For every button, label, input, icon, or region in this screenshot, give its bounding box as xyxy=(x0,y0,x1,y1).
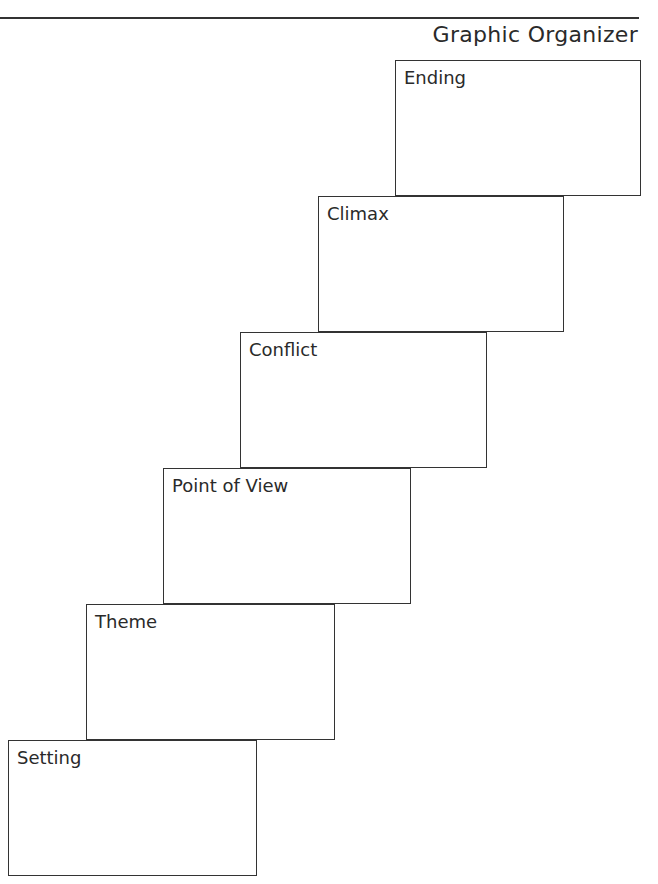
box-label: Climax xyxy=(327,203,389,224)
box-point-of-view[interactable]: Point of View xyxy=(163,468,411,604)
top-rule xyxy=(0,17,639,19)
box-label: Ending xyxy=(404,67,466,88)
box-conflict[interactable]: Conflict xyxy=(240,332,487,468)
box-label: Theme xyxy=(95,611,157,632)
box-label: Point of View xyxy=(172,475,288,496)
page-title: Graphic Organizer xyxy=(433,22,638,47)
box-label: Conflict xyxy=(249,339,317,360)
box-setting[interactable]: Setting xyxy=(8,740,257,876)
box-label: Setting xyxy=(17,747,81,768)
box-ending[interactable]: Ending xyxy=(395,60,641,196)
box-climax[interactable]: Climax xyxy=(318,196,564,332)
box-theme[interactable]: Theme xyxy=(86,604,335,740)
